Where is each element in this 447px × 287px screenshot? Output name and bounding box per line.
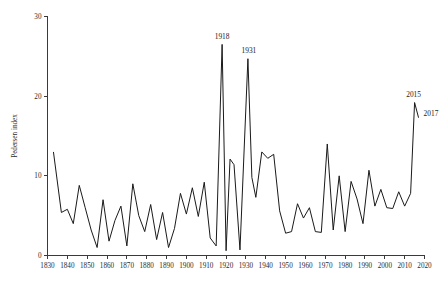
x-tick-label: 1980 — [338, 262, 353, 270]
x-tick-label: 1900 — [179, 262, 194, 270]
x-tick-label: 2020 — [417, 262, 432, 270]
x-tick-label: 1890 — [159, 262, 174, 270]
y-axis-title: Pedersen index — [11, 114, 19, 158]
x-tick-label: 1960 — [298, 262, 313, 270]
x-tick-label: 1830 — [40, 262, 55, 270]
x-tick-label: 1840 — [60, 262, 75, 270]
line-chart: 0102030 18301840185018601870188018901900… — [0, 0, 447, 287]
y-axis-ticks: 0102030 — [34, 13, 47, 260]
x-tick-label: 1990 — [358, 262, 373, 270]
annotation-label: 1931 — [242, 46, 257, 55]
x-tick-label: 2010 — [397, 262, 412, 270]
x-tick-label: 1870 — [120, 262, 135, 270]
annotation-label: 2017 — [424, 109, 439, 118]
y-tick-label: 30 — [34, 13, 42, 21]
annotation-label: 2015 — [406, 90, 421, 99]
chart-container: 0102030 18301840185018601870188018901900… — [0, 0, 447, 287]
annotation-label: 1918 — [215, 32, 230, 41]
x-tick-label: 1950 — [278, 262, 293, 270]
y-tick-label: 0 — [38, 252, 42, 260]
x-tick-label: 1920 — [219, 262, 234, 270]
data-series-line — [53, 44, 418, 250]
x-tick-label: 1910 — [199, 262, 214, 270]
y-tick-label: 10 — [34, 172, 42, 180]
x-tick-label: 1850 — [80, 262, 95, 270]
x-tick-label: 2000 — [378, 262, 393, 270]
x-tick-label: 1970 — [318, 262, 333, 270]
y-tick-label: 20 — [34, 93, 42, 101]
x-tick-label: 1860 — [100, 262, 115, 270]
x-axis-ticks: 1830184018501860187018801890190019101920… — [40, 256, 432, 271]
x-tick-label: 1930 — [239, 262, 254, 270]
x-tick-label: 1940 — [259, 262, 274, 270]
x-tick-label: 1880 — [140, 262, 155, 270]
